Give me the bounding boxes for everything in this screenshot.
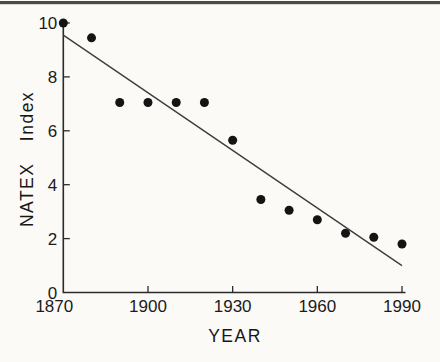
- data-point: [115, 98, 124, 107]
- y-tick-label: 0: [48, 284, 57, 303]
- x-tick-label: 1930: [214, 297, 252, 316]
- x-tick-label: 1900: [129, 297, 167, 316]
- data-point: [228, 136, 237, 145]
- data-point: [172, 98, 181, 107]
- data-series: [59, 19, 407, 266]
- y-tick-label: 4: [48, 176, 57, 195]
- figure-page: 18701900193019601990 0246810 YEAR NATEX …: [0, 0, 440, 362]
- data-point: [313, 215, 322, 224]
- y-axis-label: NATEX Index: [17, 91, 37, 227]
- data-point: [143, 98, 152, 107]
- x-tick-label: 1960: [298, 297, 336, 316]
- data-point: [256, 195, 265, 204]
- y-tick-label: 6: [48, 122, 57, 141]
- data-point: [369, 233, 378, 242]
- y-tick-labels: 0246810: [38, 14, 57, 303]
- x-tick-labels: 18701900193019601990: [35, 297, 421, 316]
- x-tick-label: 1990: [383, 297, 421, 316]
- scatter-plot: 18701900193019601990 0246810 YEAR NATEX …: [0, 0, 440, 362]
- data-point: [59, 19, 68, 28]
- data-point: [200, 98, 209, 107]
- axis-ticks: [63, 23, 402, 293]
- axis-spines: [63, 23, 405, 293]
- data-point: [87, 33, 96, 42]
- x-axis-label: YEAR: [208, 326, 262, 346]
- axes: [63, 23, 405, 293]
- data-point: [285, 206, 294, 215]
- trend-line: [63, 35, 402, 265]
- data-point: [398, 239, 407, 248]
- y-tick-label: 10: [38, 14, 57, 33]
- y-tick-label: 2: [48, 230, 57, 249]
- y-tick-label: 8: [48, 68, 57, 87]
